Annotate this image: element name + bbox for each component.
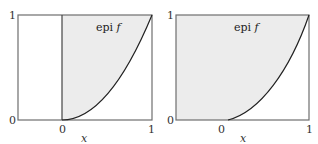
left-region-label: epi f [96,21,123,34]
left-panel: epi f 1 0 0 1 x [9,9,155,144]
right-x-axis-label: x [240,132,247,144]
left-x-tick-1: 1 [148,123,155,136]
epigraph-figure: epi f 1 0 0 1 x epi f 1 0 0 1 x [0,0,318,144]
left-y-tick-1: 1 [9,9,16,22]
right-x-tick-0: 0 [218,123,225,136]
left-y-tick-0: 0 [9,114,16,127]
right-region-label: epi f [234,21,261,34]
left-x-tick-0: 0 [59,123,66,136]
right-y-tick-1: 1 [167,9,174,22]
right-panel: epi f 1 0 0 1 x [167,9,313,144]
right-x-tick-1: 1 [306,123,313,136]
left-x-axis-label: x [81,132,88,144]
right-y-tick-0: 0 [167,114,174,127]
